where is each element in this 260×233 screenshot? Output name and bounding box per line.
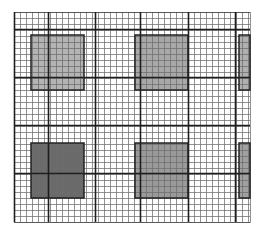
shaded-block-bottom-middle: [135, 143, 188, 198]
grid-pattern: [0, 0, 260, 233]
shaded-block-top-middle: [135, 35, 188, 90]
